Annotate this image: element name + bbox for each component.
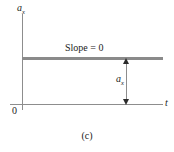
arrow-shaft — [126, 60, 127, 103]
constant-acceleration-line — [22, 57, 163, 60]
y-axis-label-subscript: x — [22, 8, 25, 15]
arrowhead-down-icon — [123, 99, 129, 105]
measurement-label-subscript: x — [121, 79, 124, 86]
origin-label: 0 — [12, 106, 17, 116]
y-axis-line — [22, 14, 23, 110]
x-axis-label: t — [165, 98, 168, 108]
acceleration-time-graph: ax t 0 Slope = 0 ax (c) — [0, 0, 174, 152]
arrowhead-up-icon — [123, 58, 129, 64]
figure-caption: (c) — [0, 130, 174, 141]
y-axis-label: ax — [17, 3, 25, 16]
measurement-label: ax — [116, 74, 124, 87]
t-axis-line — [10, 104, 163, 105]
slope-annotation: Slope = 0 — [65, 43, 103, 53]
